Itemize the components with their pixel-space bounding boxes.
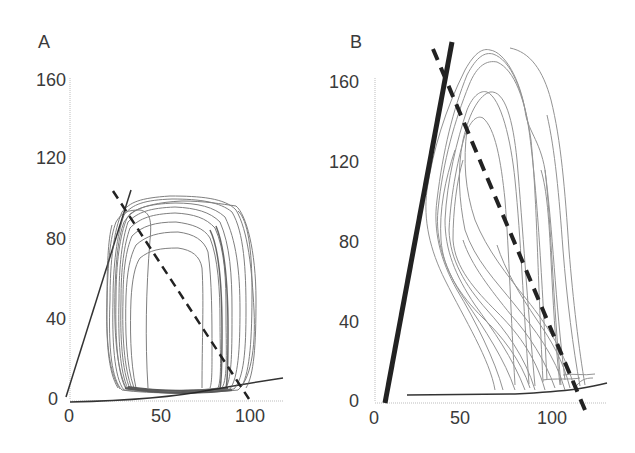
panel-b-ytick-120: 120 [329,152,359,172]
panel-a-ytick-40: 40 [46,309,66,329]
panel-a-ytick-120: 120 [36,148,66,168]
panel-b-xtick-100: 100 [537,408,567,428]
panel-a-ytick-0: 0 [48,389,58,409]
panel-b-xtick-50: 50 [450,408,470,428]
panel-a-xtick-100: 100 [235,406,265,426]
panel-b-chart: B 160 120 80 40 0 0 50 100 [315,0,635,453]
panel-b-ytick-0: 0 [349,391,359,411]
panel-b-label: B [350,32,362,52]
panel-a-ytick-160: 160 [36,70,66,90]
panel-b-pv-loops [426,48,595,390]
panel-b-ytick-40: 40 [339,312,359,332]
panel-b-ytick-80: 80 [339,232,359,252]
panel-a-label: A [38,32,50,52]
panel-a-ea-dashed-line [113,191,249,399]
panel-b-espvr-line [385,42,452,403]
panel-a-ytick-80: 80 [46,229,66,249]
panel-b-ytick-160: 160 [329,72,359,92]
panel-a-xtick-0: 0 [64,406,74,426]
panel-a-xtick-50: 50 [151,406,171,426]
panel-b-xtick-0: 0 [369,408,379,428]
panel-a-chart: A 160 120 80 40 0 0 50 100 [0,0,320,453]
